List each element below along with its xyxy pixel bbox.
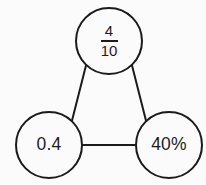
- decimal-node-circle: [16, 112, 82, 178]
- equivalence-triangle-diagram: 4 10 0.4 40%: [0, 0, 206, 185]
- percent-node-circle: [136, 112, 202, 178]
- diagram-canvas: [0, 0, 206, 185]
- fraction-node-circle: [76, 8, 142, 74]
- node-circle-group: [16, 8, 202, 178]
- edge-fraction-percent: [132, 65, 146, 121]
- edge-fraction-decimal: [72, 65, 86, 121]
- edge-group: [72, 65, 146, 145]
